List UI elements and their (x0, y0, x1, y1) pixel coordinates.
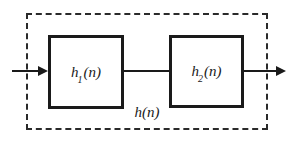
input-arrowhead-icon (38, 66, 48, 76)
overall-system-args: (n) (142, 104, 160, 120)
overall-system-label: h(n) (118, 105, 176, 120)
block-h1-subscript: 1 (78, 74, 83, 85)
block-h2: h2(n) (169, 35, 244, 108)
block-h2-args: (n) (204, 63, 222, 79)
cascade-system-diagram: h1(n) h2(n) h(n) (0, 0, 297, 142)
block-h1: h1(n) (48, 35, 124, 109)
inter-block-connector-line (122, 70, 171, 72)
block-h2-subscript: 2 (198, 73, 203, 84)
output-arrowhead-icon (276, 66, 286, 76)
block-h1-label: h1(n) (71, 65, 101, 80)
input-signal-line (12, 70, 41, 72)
overall-system-base: h (135, 104, 143, 120)
block-h2-label: h2(n) (192, 64, 222, 79)
output-signal-line (242, 70, 278, 72)
block-h1-args: (n) (84, 64, 102, 80)
